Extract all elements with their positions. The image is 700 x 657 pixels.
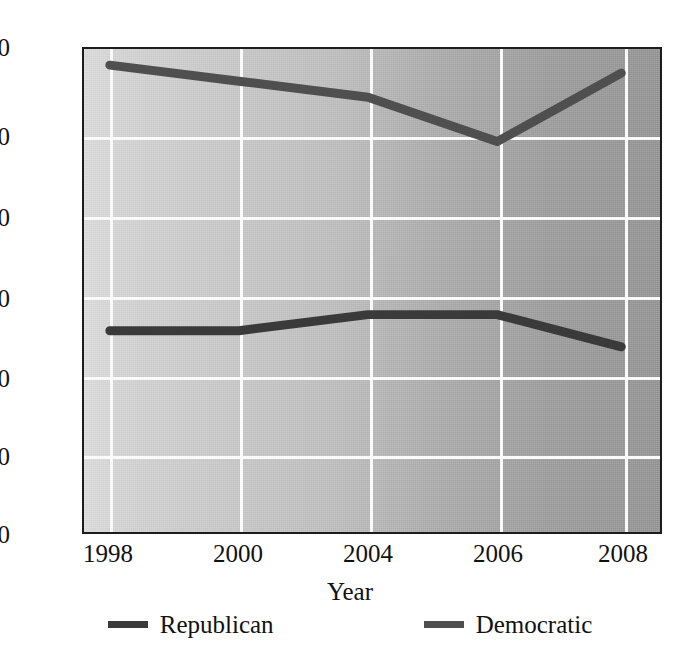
plot-area — [82, 47, 662, 534]
series-line-republican — [110, 315, 621, 347]
x-axis-tick-2006: 2006 — [438, 541, 558, 566]
y-axis-tick-60: 60 — [0, 35, 10, 60]
x-axis-tick-2000: 2000 — [178, 541, 298, 566]
y-axis-tick-20: 20 — [0, 366, 10, 391]
series-layer — [84, 49, 660, 532]
legend-swatch-republican-icon — [108, 621, 148, 628]
legend-label-democratic: Democratic — [476, 612, 593, 637]
series-line-democratic — [110, 65, 621, 141]
x-axis-tick-1998: 1998 — [48, 541, 168, 566]
y-axis-tick-40: 40 — [0, 205, 10, 230]
legend-item-democratic: Democratic — [424, 612, 593, 637]
y-axis-tick-30: 30 — [0, 286, 10, 311]
x-axis-tick-2008: 2008 — [563, 541, 683, 566]
legend-label-republican: Republican — [160, 612, 274, 637]
x-axis-title: Year — [0, 578, 700, 606]
legend-item-republican: Republican — [108, 612, 274, 637]
line-chart-figure: 60 50 40 30 20 10 0 1998 2000 2004 2006 … — [0, 0, 700, 657]
y-axis-tick-10: 10 — [0, 444, 10, 469]
legend-swatch-democratic-icon — [424, 621, 464, 628]
x-axis-tick-2004: 2004 — [308, 541, 428, 566]
y-axis-tick-50: 50 — [0, 124, 10, 149]
chart-legend: Republican Democratic — [0, 612, 700, 637]
y-axis-tick-0: 0 — [0, 522, 10, 547]
